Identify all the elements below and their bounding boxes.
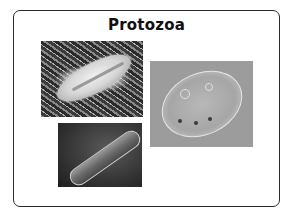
vacuole-shape — [205, 83, 213, 91]
protozoan-cell-shape — [151, 61, 253, 147]
paramecium-dark-sem-image — [58, 123, 142, 187]
vacuole-shape — [180, 89, 190, 99]
slide-title: Protozoa — [0, 16, 293, 34]
granule-shape — [194, 121, 198, 125]
protozoan-cell-shape — [66, 127, 142, 187]
granule-shape — [208, 117, 212, 121]
ciliate-light-micrograph-image — [150, 61, 253, 147]
paramecium-sem-image — [41, 41, 143, 117]
granule-shape — [178, 119, 182, 123]
